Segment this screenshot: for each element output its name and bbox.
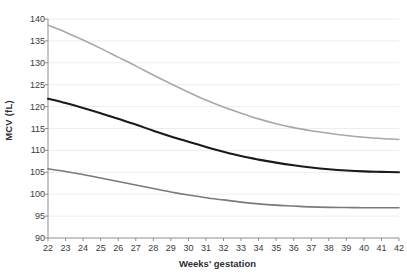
x-tick-label: 36	[289, 244, 299, 253]
x-tick-label: 38	[324, 244, 334, 253]
x-tick-label: 30	[183, 244, 193, 253]
x-tick-label: 39	[341, 244, 351, 253]
x-tick-label: 33	[236, 244, 246, 253]
x-tick-label: 27	[131, 244, 141, 253]
x-tick-label: 29	[166, 244, 176, 253]
x-tick-label: 26	[113, 244, 123, 253]
x-tick-label: 34	[254, 244, 264, 253]
x-tick-label: 42	[394, 244, 404, 253]
x-tick-label: 25	[96, 244, 106, 253]
x-tick-label: 22	[43, 244, 53, 253]
chart-figure: MCV (fL) 9095100105110115120125130135140…	[0, 0, 407, 275]
x-tick-label: 31	[201, 244, 211, 253]
x-tick-label: 32	[218, 244, 228, 253]
x-tick-label: 24	[78, 244, 88, 253]
x-axis-title-label: Weeks' gestation	[179, 258, 256, 269]
x-tick-label: 37	[306, 244, 316, 253]
x-axis-tick-labels: 2223242526272829303132333435363738394041…	[0, 0, 407, 275]
x-tick-label: 40	[359, 244, 369, 253]
x-tick-label: 35	[271, 244, 281, 253]
x-axis-title: Weeks' gestation	[48, 258, 387, 269]
x-tick-label: 28	[148, 244, 158, 253]
x-tick-label: 41	[376, 244, 386, 253]
x-tick-label: 23	[61, 244, 71, 253]
